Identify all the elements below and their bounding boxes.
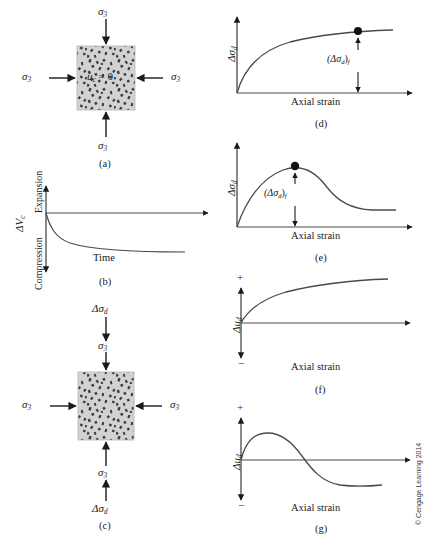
label-sigma3-top-c: σ3 — [98, 340, 107, 353]
label-deviator-stress-e: Δσd — [226, 180, 239, 196]
triaxial-test-figure: σ3 σ3 σ3 σ3 uc = 0 (a) ΔVc Expansion Com… — [0, 0, 428, 541]
label-sigma3-left-a: σ3 — [22, 71, 31, 84]
label-deviator-stress-d: Δσd — [226, 46, 239, 62]
label-axial-strain-e: Axial strain — [291, 231, 340, 242]
curve-volume-change-b — [46, 213, 185, 252]
label-pore-pressure-zero-a: uc = 0 — [87, 71, 113, 84]
copyright-notice: © Cengage Learning 2014 — [415, 443, 422, 525]
curve-pore-pressure-f — [241, 279, 388, 323]
label-axial-strain-f: Axial strain — [291, 362, 340, 373]
label-sigma3-left-c: σ3 — [22, 399, 31, 412]
panel-f-chart — [241, 279, 410, 358]
label-pore-pressure-f: Δud — [231, 317, 244, 333]
label-sigma3-right-a: σ3 — [171, 71, 180, 84]
label-failure-deviator-d: (Δσd)f — [327, 54, 350, 66]
label-plus-sign-g: + — [237, 402, 243, 413]
label-volume-change-b: ΔVc — [14, 216, 27, 232]
label-sigma3-top-a: σ3 — [98, 6, 107, 19]
label-sigma3-bottom-c: σ3 — [98, 467, 107, 480]
failure-point-marker-e — [291, 162, 299, 170]
panel-tag-g: (g) — [315, 524, 327, 535]
failure-point-marker-d — [354, 27, 362, 35]
label-sigma3-bottom-a: σ3 — [98, 140, 107, 153]
curve-deviator-stress-e — [237, 168, 396, 227]
label-minus-sign-f: − — [238, 358, 244, 369]
label-plus-sign-f: + — [237, 272, 243, 283]
label-compression-b: Compression — [34, 237, 44, 290]
curve-deviator-stress-d — [237, 30, 393, 93]
label-axial-strain-g: Axial strain — [291, 503, 340, 514]
panel-tag-e: (e) — [315, 253, 327, 264]
panel-tag-b: (b) — [99, 277, 111, 288]
label-time-axis-b: Time — [93, 253, 115, 264]
label-sigma3-right-c: σ3 — [170, 399, 179, 412]
panel-b-chart — [46, 186, 208, 272]
label-deviator-bottom-c: Δσd — [92, 503, 108, 516]
panel-tag-d: (d) — [315, 119, 327, 130]
label-axial-strain-d: Axial strain — [291, 97, 340, 108]
label-expansion-b: Expansion — [34, 171, 44, 213]
label-failure-deviator-e: (Δσd)f — [264, 188, 287, 200]
panel-g-chart — [241, 418, 410, 500]
label-minus-sign-g: − — [238, 500, 244, 511]
panel-d-chart — [237, 17, 412, 93]
soil-specimen-c — [78, 372, 134, 440]
panel-tag-a: (a) — [99, 159, 111, 170]
panel-tag-c: (c) — [99, 521, 111, 532]
panel-e-chart — [237, 143, 412, 227]
label-pore-pressure-g: Δud — [231, 454, 244, 470]
label-deviator-top-c: Δσd — [92, 303, 108, 316]
figure-canvas — [0, 0, 428, 541]
panel-tag-f: (f) — [315, 385, 326, 396]
